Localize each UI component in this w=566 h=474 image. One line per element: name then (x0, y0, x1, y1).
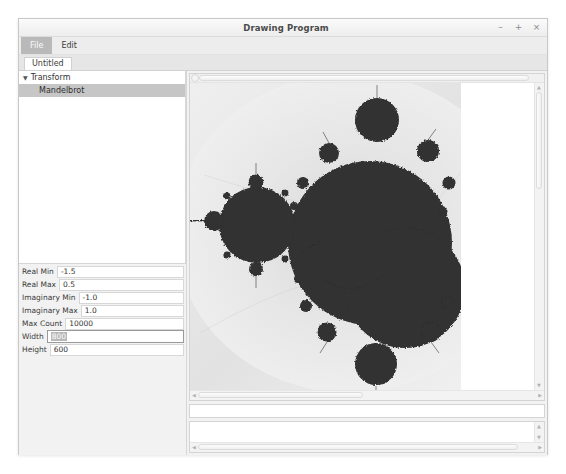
chevron-down-icon[interactable]: ▼ (23, 74, 28, 81)
input-imaginary-min-value: -1.0 (83, 293, 98, 302)
input-real-max-value: 0.5 (63, 280, 75, 289)
menu-item-edit[interactable]: Edit (52, 37, 86, 54)
log-scroll-up-icon[interactable]: ▲ (537, 424, 541, 429)
left-column: ▼ Transform Mandelbrot Real Min -1.5 Rea… (19, 71, 187, 455)
label-width: Width (22, 332, 47, 341)
log-scroll-right-icon[interactable]: ▶ (538, 445, 542, 450)
canvas-middle: ▲ ▼ (190, 83, 544, 390)
log-middle: ▲ ▼ (190, 422, 544, 442)
tree-node-transform[interactable]: ▼ Transform (19, 71, 185, 84)
field-row-real-max: Real Max 0.5 (19, 278, 186, 291)
canvas-scroll-knob[interactable] (191, 74, 199, 82)
input-height[interactable]: 600 (50, 344, 184, 356)
input-height-value: 600 (54, 345, 68, 354)
log-scroll-down-icon[interactable]: ▼ (537, 435, 541, 440)
input-max-count-value: 10000 (69, 319, 93, 328)
canvas-top-scroll-thumb[interactable] (199, 75, 529, 81)
close-icon[interactable]: × (532, 23, 541, 32)
window-titlebar[interactable]: Drawing Program – + × (19, 19, 547, 37)
log-panel: ▲ ▼ ◀ ▶ (189, 421, 545, 453)
field-row-real-min: Real Min -1.5 (19, 265, 186, 278)
label-height: Height (22, 345, 50, 354)
scroll-down-icon[interactable]: ▼ (537, 383, 541, 388)
message-field[interactable] (189, 404, 545, 418)
tab-strip: Untitled (19, 55, 547, 71)
log-text-area[interactable] (190, 422, 534, 442)
label-imaginary-max: Imaginary Max (22, 306, 81, 315)
input-imaginary-min[interactable]: -1.0 (79, 292, 184, 304)
main-split: ▼ Transform Mandelbrot Real Min -1.5 Rea… (19, 71, 547, 455)
input-width-value: 800 (51, 332, 67, 341)
property-form: Real Min -1.5 Real Max 0.5 Imaginary Min… (19, 264, 186, 455)
label-real-min: Real Min (22, 267, 57, 276)
canvas-vscroll-thumb[interactable] (536, 92, 542, 189)
window-controls: – + × (496, 19, 541, 36)
field-row-imaginary-max: Imaginary Max 1.0 (19, 304, 186, 317)
canvas-bottom-scrollbar[interactable]: ◀ ▶ (190, 390, 544, 400)
label-max-count: Max Count (22, 319, 65, 328)
menu-item-file[interactable]: File (21, 37, 52, 54)
minimize-icon[interactable]: – (496, 23, 505, 32)
input-imaginary-max[interactable]: 1.0 (81, 305, 184, 317)
mandelbrot-set-render[interactable] (190, 83, 503, 390)
canvas-viewport[interactable] (190, 83, 534, 390)
scroll-up-icon[interactable]: ▲ (537, 85, 541, 90)
input-real-max[interactable]: 0.5 (59, 279, 184, 291)
canvas-area: ▲ ▼ ◀ ▶ (189, 73, 545, 401)
input-real-min[interactable]: -1.5 (57, 266, 184, 278)
label-imaginary-min: Imaginary Min (22, 293, 79, 302)
tree-node-mandelbrot-label: Mandelbrot (39, 86, 84, 95)
log-bottom-scrollbar[interactable]: ◀ ▶ (190, 442, 544, 452)
tree-node-mandelbrot[interactable]: Mandelbrot (19, 84, 185, 97)
log-scroll-left-icon[interactable]: ◀ (192, 445, 196, 450)
field-row-max-count: Max Count 10000 (19, 317, 186, 330)
input-real-min-value: -1.5 (61, 267, 76, 276)
canvas-top-scrollbar[interactable] (190, 74, 544, 83)
window-title: Drawing Program (237, 23, 328, 33)
input-width[interactable]: 800 (47, 330, 184, 343)
application-window: Drawing Program – + × File Edit Untitled… (18, 18, 548, 455)
field-row-height: Height 600 (19, 343, 186, 356)
tree-node-transform-label: Transform (31, 73, 71, 82)
label-real-max: Real Max (22, 280, 59, 289)
right-column: ▲ ▼ ◀ ▶ ▲ ▼ (187, 71, 547, 455)
scroll-right-icon[interactable]: ▶ (538, 393, 542, 398)
menu-bar: File Edit (19, 37, 547, 55)
tab-untitled[interactable]: Untitled (24, 57, 72, 70)
field-row-width: Width 800 (19, 330, 186, 343)
field-row-imaginary-min: Imaginary Min -1.0 (19, 291, 186, 304)
input-imaginary-max-value: 1.0 (85, 306, 97, 315)
canvas-vertical-scrollbar[interactable]: ▲ ▼ (534, 83, 544, 390)
scroll-left-icon[interactable]: ◀ (192, 393, 196, 398)
log-vertical-scrollbar[interactable]: ▲ ▼ (534, 422, 544, 442)
log-bottom-scroll-thumb[interactable] (198, 444, 518, 450)
input-max-count[interactable]: 10000 (65, 318, 184, 330)
maximize-icon[interactable]: + (514, 23, 523, 32)
canvas-bottom-scroll-thumb[interactable] (198, 392, 363, 398)
transform-tree[interactable]: ▼ Transform Mandelbrot (19, 71, 186, 264)
